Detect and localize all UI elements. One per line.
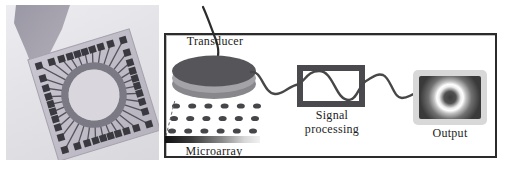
microarray-label: Microarray: [168, 144, 260, 158]
signal-processing-label-line2: processing: [305, 122, 359, 136]
output-resonance-ring-image: [419, 76, 481, 119]
chip-photo: [6, 5, 159, 160]
chip-photo-illustration: [6, 5, 159, 160]
figure-canvas: Transducer Signal processing Output Micr…: [0, 0, 508, 170]
signal-processing-label: Signal processing: [294, 108, 370, 136]
output-label: Output: [413, 126, 487, 140]
transducer-label: Transducer: [169, 34, 261, 48]
output-frame: [413, 70, 487, 125]
signal-processing-label-line1: Signal: [316, 108, 348, 122]
microarray-gradient-bar: [165, 136, 260, 143]
